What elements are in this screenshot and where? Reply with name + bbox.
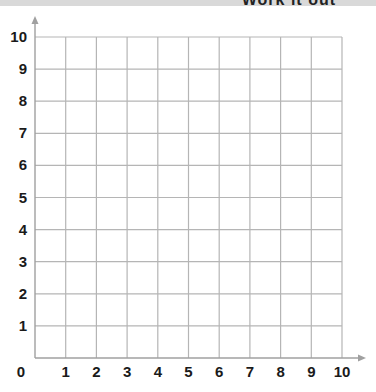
x-tick-label: 2	[92, 363, 100, 380]
y-axis-arrow-icon	[32, 16, 39, 24]
x-tick-label: 3	[123, 363, 131, 380]
y-tick-label: 10	[10, 28, 27, 45]
y-tick-label: 6	[19, 156, 27, 173]
x-tick-label: 6	[215, 363, 223, 380]
x-tick-label: 0	[17, 363, 25, 380]
x-tick-label: 5	[184, 363, 192, 380]
coordinate-grid-chart: 01234567891012345678910	[0, 0, 376, 392]
y-tick-label: 4	[19, 221, 28, 238]
y-tick-label: 5	[19, 189, 27, 206]
x-tick-label: 4	[154, 363, 163, 380]
x-axis-arrow-icon	[358, 355, 366, 362]
x-tick-label: 7	[246, 363, 254, 380]
y-tick-label: 9	[19, 60, 27, 77]
y-tick-label: 2	[19, 285, 27, 302]
x-tick-label: 1	[62, 363, 70, 380]
x-tick-label: 9	[307, 363, 315, 380]
y-tick-label: 7	[19, 124, 27, 141]
y-tick-label: 8	[19, 92, 27, 109]
y-tick-label: 3	[19, 253, 27, 270]
x-tick-label: 8	[276, 363, 284, 380]
x-tick-label: 10	[334, 363, 351, 380]
y-tick-label: 1	[19, 317, 27, 334]
